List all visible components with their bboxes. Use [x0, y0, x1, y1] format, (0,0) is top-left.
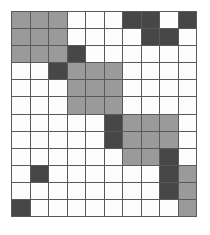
grid-cell: [179, 46, 198, 63]
grid-cell: [86, 166, 105, 183]
grid-cell: [105, 97, 124, 114]
grid-cell: [68, 46, 87, 63]
grid-cell: [179, 80, 198, 97]
grid-cell: [105, 80, 124, 97]
grid-cell: [12, 200, 31, 217]
grid-cell: [142, 166, 161, 183]
grid-cell: [31, 132, 50, 149]
grid-cell: [179, 115, 198, 132]
grid-cell: [31, 29, 50, 46]
grid-cell: [68, 12, 87, 29]
grid-cell: [105, 46, 124, 63]
grid-cell: [68, 183, 87, 200]
grid-cell: [68, 63, 87, 80]
grid-cell: [31, 63, 50, 80]
grid-cell: [123, 149, 142, 166]
grid-cell: [68, 166, 87, 183]
grid-cell: [68, 132, 87, 149]
grid-cell: [123, 200, 142, 217]
grid-cell: [31, 183, 50, 200]
grid-cell: [105, 166, 124, 183]
grid-cell: [160, 200, 179, 217]
grid-cell: [12, 115, 31, 132]
grid-cell: [142, 115, 161, 132]
grid-cell: [49, 12, 68, 29]
grid-cell: [86, 97, 105, 114]
grid-cell: [179, 29, 198, 46]
grid-cell: [179, 166, 198, 183]
grid-cell: [142, 183, 161, 200]
grid-cell: [142, 63, 161, 80]
grid-cell: [160, 115, 179, 132]
grid-cell: [86, 63, 105, 80]
grid-cell: [31, 200, 50, 217]
grid-cell: [179, 97, 198, 114]
grid-cell: [160, 46, 179, 63]
grid-cell: [142, 46, 161, 63]
grid-cell: [68, 97, 87, 114]
grid-cell: [86, 132, 105, 149]
grid-cell: [49, 149, 68, 166]
grid-cell: [12, 12, 31, 29]
grid-cell: [31, 115, 50, 132]
grid-cell: [160, 149, 179, 166]
grid-cell: [160, 12, 179, 29]
grid-cell: [123, 80, 142, 97]
grid-cell: [49, 46, 68, 63]
grid-cell: [123, 12, 142, 29]
grid-cell: [105, 183, 124, 200]
grid-cell: [123, 183, 142, 200]
grid-cell: [160, 183, 179, 200]
grid-cell: [49, 183, 68, 200]
grid-cell: [68, 29, 87, 46]
grid-cell: [86, 115, 105, 132]
grid-cell: [105, 200, 124, 217]
grid-cell: [123, 166, 142, 183]
grid-cell: [12, 29, 31, 46]
pattern-grid: [11, 11, 197, 217]
grid-cell: [49, 200, 68, 217]
grid-cell: [123, 63, 142, 80]
grid-cell: [49, 63, 68, 80]
grid-cell: [160, 97, 179, 114]
grid-cell: [12, 63, 31, 80]
grid-cell: [49, 166, 68, 183]
grid-container: [11, 11, 197, 217]
grid-cell: [12, 46, 31, 63]
grid-cell: [179, 200, 198, 217]
grid-cell: [86, 29, 105, 46]
grid-cell: [105, 149, 124, 166]
grid-cell: [160, 132, 179, 149]
grid-cell: [86, 149, 105, 166]
grid-cell: [105, 12, 124, 29]
grid-cell: [105, 115, 124, 132]
grid-cell: [142, 132, 161, 149]
grid-cell: [12, 132, 31, 149]
grid-cell: [86, 12, 105, 29]
grid-cell: [105, 132, 124, 149]
grid-cell: [86, 200, 105, 217]
grid-cell: [31, 12, 50, 29]
grid-cell: [123, 29, 142, 46]
grid-cell: [49, 115, 68, 132]
grid-cell: [68, 149, 87, 166]
grid-cell: [31, 166, 50, 183]
grid-cell: [31, 97, 50, 114]
grid-cell: [142, 200, 161, 217]
grid-cell: [49, 132, 68, 149]
grid-cell: [179, 183, 198, 200]
grid-cell: [68, 115, 87, 132]
grid-cell: [179, 132, 198, 149]
grid-cell: [123, 97, 142, 114]
grid-cell: [31, 46, 50, 63]
grid-cell: [123, 132, 142, 149]
grid-cell: [179, 12, 198, 29]
grid-cell: [160, 166, 179, 183]
grid-cell: [49, 97, 68, 114]
grid-cell: [160, 29, 179, 46]
grid-cell: [86, 183, 105, 200]
grid-cell: [142, 97, 161, 114]
grid-cell: [123, 115, 142, 132]
grid-cell: [12, 80, 31, 97]
grid-cell: [12, 149, 31, 166]
